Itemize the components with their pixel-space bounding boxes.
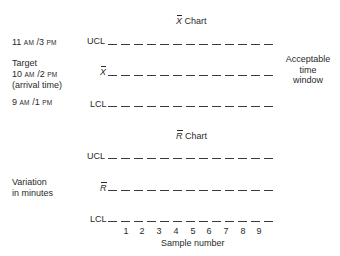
variation-label: Variation in minutes — [12, 177, 53, 198]
xbar-lcl-label: LCL — [90, 99, 107, 110]
x-tick: 7 — [221, 226, 231, 236]
x-tick: 9 — [254, 226, 264, 236]
rbar-chart-title: R Chart — [176, 131, 207, 142]
xbar-center-label: X — [100, 67, 106, 78]
rbar-ucl-line — [108, 158, 274, 159]
target-time: 10 AM /2 PM — [12, 69, 62, 81]
xbar-center-line — [108, 75, 274, 76]
rbar-center-label: R — [100, 183, 107, 194]
xbar-target-label: Target 10 AM /2 PM (arrival time) — [12, 58, 62, 91]
xbar-ucl-line — [108, 44, 274, 45]
x-axis-label: Sample number — [161, 238, 225, 249]
rbar-center-line — [108, 190, 274, 191]
x-tick: 1 — [121, 226, 131, 236]
x-tick: 4 — [171, 226, 181, 236]
xbar-lcl-value-label: 9 AM /1 PM — [12, 97, 52, 108]
xbar-ucl-value-label: 11 AM /3 PM — [12, 37, 57, 48]
target-title: Target — [12, 58, 62, 69]
x-tick: 6 — [204, 226, 214, 236]
xbar-chart-title-text: Chart — [182, 16, 207, 26]
x-tick: 5 — [188, 226, 198, 236]
rbar-lcl-label: LCL — [90, 214, 107, 225]
acceptable-time-window-label: Acceptable time window — [280, 54, 336, 86]
x-tick: 2 — [137, 226, 147, 236]
rbar-chart-title-text: Chart — [183, 131, 208, 141]
xbar-ucl-label: UCL — [87, 36, 105, 47]
target-note: (arrival time) — [12, 80, 62, 91]
rbar-ucl-label: UCL — [87, 151, 105, 162]
x-tick: 8 — [238, 226, 248, 236]
x-tick: 3 — [154, 226, 164, 236]
rbar-symbol: R — [176, 131, 183, 142]
xbar-lcl-line — [108, 106, 274, 107]
xbar-chart-title: X Chart — [176, 16, 207, 27]
xbar-symbol: X — [176, 16, 182, 27]
rbar-lcl-line — [108, 221, 274, 222]
